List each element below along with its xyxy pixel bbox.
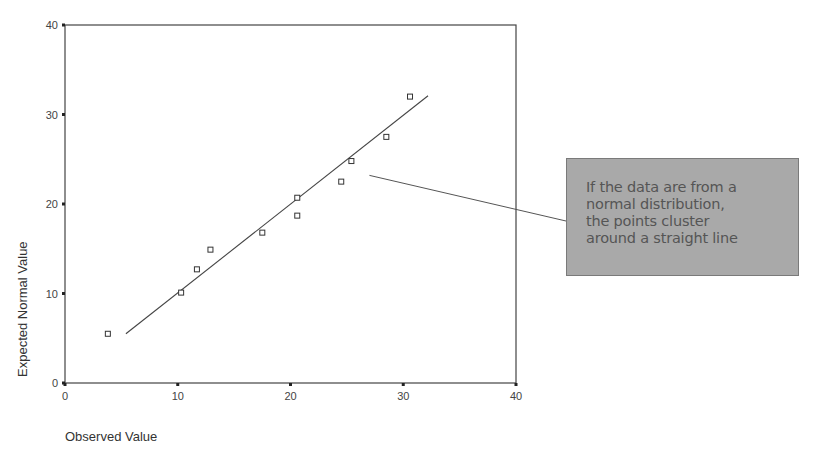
y-tick-mark: [62, 292, 65, 295]
annotation-text: If the data are from a normal distributi…: [586, 179, 798, 247]
y-tick-label: 0: [52, 377, 58, 389]
data-point-marker: [208, 247, 213, 252]
y-tick-label: 20: [46, 198, 58, 210]
y-tick-mark: [62, 113, 65, 116]
callout-pointer: [369, 175, 566, 221]
y-tick-mark: [62, 203, 65, 206]
data-point-marker: [295, 195, 300, 200]
reference-line: [126, 96, 428, 334]
data-points: [105, 94, 412, 336]
y-tick-label: 40: [46, 19, 58, 31]
x-tick-mark: [402, 383, 405, 386]
reference-line-segment: [126, 96, 428, 334]
data-point-marker: [408, 94, 413, 99]
data-point-marker: [260, 230, 265, 235]
x-tick-label: 40: [510, 390, 522, 402]
x-tick-label: 30: [397, 390, 409, 402]
callout-pointer-line: [369, 175, 566, 221]
data-point-marker: [349, 159, 354, 164]
annotation-callout-box: If the data are from a normal distributi…: [566, 158, 799, 276]
x-tick-label: 20: [284, 390, 296, 402]
data-point-marker: [339, 179, 344, 184]
x-tick-label: 0: [62, 390, 68, 402]
x-tick-label: 10: [172, 390, 184, 402]
axis-ticks: 010203040010203040: [46, 19, 522, 402]
y-axis-title: Expected Normal Value: [15, 241, 30, 377]
x-tick-mark: [64, 383, 67, 386]
data-point-marker: [295, 213, 300, 218]
x-tick-mark: [515, 383, 518, 386]
y-tick-label: 10: [46, 288, 58, 300]
y-tick-label: 30: [46, 109, 58, 121]
y-tick-mark: [62, 24, 65, 27]
x-tick-mark: [176, 383, 179, 386]
x-axis-title: Observed Value: [65, 429, 157, 444]
data-point-marker: [179, 290, 184, 295]
data-point-marker: [194, 267, 199, 272]
data-point-marker: [105, 331, 110, 336]
x-tick-mark: [289, 383, 292, 386]
data-point-marker: [384, 134, 389, 139]
